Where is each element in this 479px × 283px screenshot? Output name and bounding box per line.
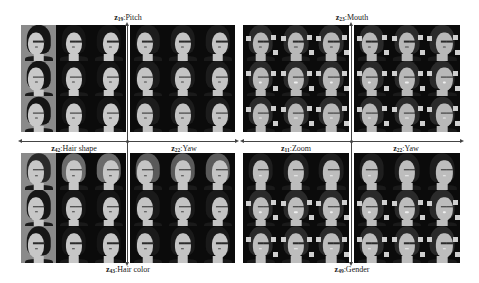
face-thumbnail — [65, 68, 81, 91]
mouth — [181, 118, 184, 119]
grid-cell — [354, 96, 389, 132]
eyes — [257, 206, 269, 207]
mouth — [368, 212, 371, 213]
face-thumbnail — [103, 160, 119, 183]
face-thumbnail — [361, 197, 377, 220]
background-light — [453, 200, 458, 205]
eyes — [107, 112, 119, 113]
neck — [437, 256, 448, 263]
grid-haircolor-hairshape — [21, 153, 126, 263]
grid-cell — [314, 25, 349, 61]
face-thumbnail — [103, 103, 119, 126]
neck — [366, 183, 377, 190]
eyes — [33, 169, 45, 170]
face-thumbnail — [212, 234, 228, 257]
neck — [326, 220, 337, 227]
background-light — [307, 200, 312, 205]
grid-cell — [425, 61, 460, 97]
face-thumbnail — [103, 234, 119, 257]
mouth — [294, 175, 297, 176]
mouth — [405, 46, 408, 47]
face-thumbnail — [361, 68, 377, 91]
background-light — [455, 121, 460, 126]
background-light — [316, 107, 321, 112]
face-thumbnail — [28, 32, 44, 55]
face-thumbnail — [253, 234, 269, 257]
face-thumbnail — [436, 103, 452, 126]
face-thumbnail — [174, 197, 190, 220]
mouth — [330, 46, 333, 47]
eyes — [179, 112, 191, 113]
face-thumbnail — [436, 160, 452, 183]
background-light — [342, 200, 347, 205]
grid-cell — [56, 25, 91, 61]
face-thumbnail — [174, 68, 190, 91]
eyes — [328, 76, 340, 77]
grid-cell — [389, 96, 424, 132]
eyes — [404, 169, 416, 170]
grid-cell — [314, 190, 349, 227]
neck — [437, 183, 448, 190]
face-thumbnail — [253, 197, 269, 220]
grid-cell — [130, 61, 165, 97]
eyes — [441, 112, 453, 113]
eyes — [328, 112, 340, 113]
neck — [291, 126, 302, 132]
face-thumbnail — [323, 68, 339, 91]
neck — [402, 183, 413, 190]
face-thumbnail — [436, 32, 452, 55]
mouth — [72, 118, 75, 119]
grid-cell — [243, 61, 278, 97]
mouth — [294, 212, 297, 213]
eyes — [107, 206, 119, 207]
background-light — [271, 237, 276, 242]
face-thumbnail — [212, 68, 228, 91]
grid-pitch-yaw — [130, 25, 235, 132]
mouth — [218, 118, 221, 119]
background-light — [453, 106, 458, 111]
grid-pitch-hairshape — [21, 25, 126, 132]
background-light — [357, 36, 362, 41]
mouth — [259, 82, 262, 83]
background-light — [246, 107, 251, 112]
mouth — [294, 248, 297, 249]
mouth — [144, 82, 147, 83]
background-light — [316, 237, 321, 242]
neck — [68, 183, 79, 190]
background-light — [392, 71, 397, 76]
face-thumbnail — [361, 103, 377, 126]
neck — [212, 220, 223, 227]
background-light — [344, 121, 349, 126]
neck — [142, 220, 153, 227]
neck — [402, 220, 413, 227]
neck — [33, 256, 44, 263]
mouth — [330, 212, 333, 213]
face-thumbnail — [361, 32, 377, 55]
background-light — [418, 35, 423, 40]
mouth — [35, 82, 38, 83]
background-light — [382, 106, 387, 111]
eyes — [70, 41, 82, 42]
eyes — [33, 41, 45, 42]
eyes — [328, 243, 340, 244]
background-light — [271, 106, 276, 111]
face-thumbnail — [288, 234, 304, 257]
mouth — [259, 212, 262, 213]
grid-mouth-yaw — [354, 25, 460, 132]
eyes — [328, 169, 340, 170]
mouth — [218, 82, 221, 83]
grid-cell — [91, 226, 126, 263]
eyes — [142, 41, 154, 42]
face-thumbnail — [361, 160, 377, 183]
grid-cell — [389, 61, 424, 97]
mouth — [218, 248, 221, 249]
grid-cell — [354, 226, 389, 263]
neck — [402, 126, 413, 132]
mouth — [294, 46, 297, 47]
background-light — [357, 71, 362, 76]
eyes — [404, 206, 416, 207]
mouth — [72, 248, 75, 249]
background-light — [246, 36, 251, 41]
grid-gender-zoom — [243, 153, 349, 263]
background-light — [357, 201, 362, 206]
